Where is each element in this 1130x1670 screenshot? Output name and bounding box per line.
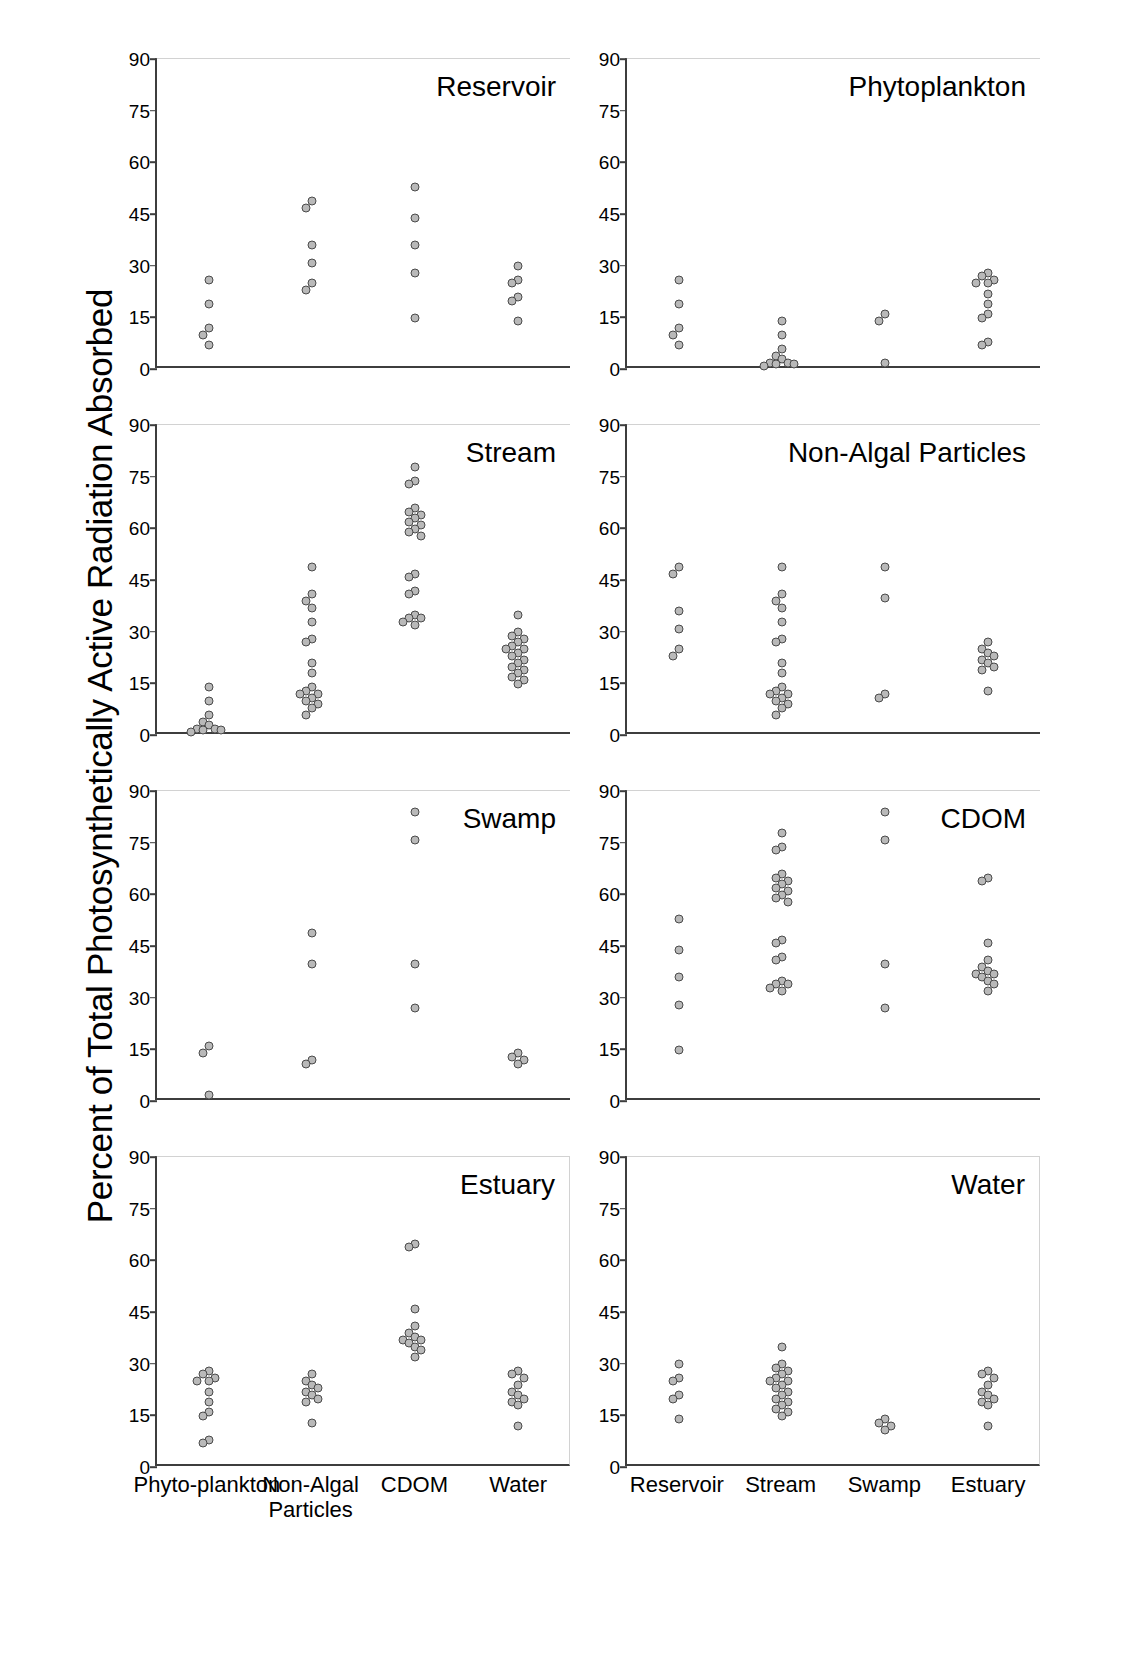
y-tick-mark-0 [150,1100,157,1102]
data-point [307,1418,316,1427]
y-tick-mark-45 [150,213,157,215]
data-point [759,362,768,371]
y-tick-mark-15 [620,683,627,685]
plot-area-swamp: 0153045607590Swamp [155,790,570,1100]
y-tick-mark-45 [620,945,627,947]
y-tick-label-75: 75 [129,1199,150,1218]
y-tick-mark-15 [150,1049,157,1051]
y-tick-mark-60 [620,894,627,896]
y-tick-mark-60 [620,162,627,164]
data-point [668,331,677,340]
y-tick-label-75: 75 [599,467,620,486]
data-point [765,983,774,992]
data-point [405,590,414,599]
data-point [783,897,792,906]
data-point [771,846,780,855]
plot-area-non-algal-particles: 0153045607590Non-Algal Particles [625,424,1040,734]
y-tick-label-15: 15 [599,1040,620,1059]
data-point [204,1387,213,1396]
y-tick-mark-30 [150,631,157,633]
data-point [789,360,798,369]
y-tick-label-60: 60 [129,1251,150,1270]
x-tick-label-stream: Stream [745,1472,816,1497]
data-point [668,569,677,578]
y-tick-label-30: 30 [129,1354,150,1373]
y-tick-mark-30 [620,631,627,633]
data-point [881,562,890,571]
y-tick-mark-30 [150,997,157,999]
data-point [417,531,426,540]
data-point [777,659,786,668]
y-tick-mark-75 [150,842,157,844]
data-point [984,686,993,695]
y-tick-mark-15 [620,1415,627,1417]
y-tick-label-0: 0 [139,1092,150,1111]
y-tick-label-15: 15 [129,308,150,327]
data-point [411,269,420,278]
y-tick-mark-0 [150,1466,157,1468]
y-tick-label-45: 45 [129,937,150,956]
y-tick-mark-45 [150,945,157,947]
data-point [198,1049,207,1058]
y-tick-mark-45 [620,1311,627,1313]
y-tick-mark-15 [150,683,157,685]
data-point [301,1398,310,1407]
y-tick-mark-0 [620,734,627,736]
data-point [881,1004,890,1013]
x-tick-label-swamp: Swamp [848,1472,921,1497]
data-point [198,1411,207,1420]
data-point [674,1045,683,1054]
y-tick-label-75: 75 [599,101,620,120]
y-tick-mark-0 [620,368,627,370]
data-point [668,1377,677,1386]
data-point [674,1001,683,1010]
y-tick-label-15: 15 [599,1406,620,1425]
y-tick-label-75: 75 [129,833,150,852]
data-point [513,1422,522,1431]
data-point [307,659,316,668]
data-point [771,939,780,948]
y-tick-label-90: 90 [129,50,150,69]
y-tick-label-30: 30 [599,256,620,275]
y-tick-label-0: 0 [139,726,150,745]
panel-reservoir: 0153045607590Reservoir [100,40,570,388]
data-point [674,607,683,616]
y-tick-mark-0 [150,368,157,370]
plot-area-estuary: 0153045607590Estuary [155,1156,570,1466]
data-point [674,914,683,923]
y-tick-label-30: 30 [129,256,150,275]
data-point [978,313,987,322]
figure-panel-grid: Percent of Total Photosynthetically Acti… [0,0,1130,1670]
data-point [411,808,420,817]
data-point [192,1377,201,1386]
y-tick-label-90: 90 [599,1148,620,1167]
y-axis-title-container: Percent of Total Photosynthetically Acti… [0,0,92,1520]
data-point [777,317,786,326]
data-point [307,241,316,250]
data-point [674,945,683,954]
data-point [198,1439,207,1448]
data-point [301,638,310,647]
data-point [674,624,683,633]
y-tick-label-45: 45 [599,937,620,956]
y-tick-mark-75 [620,842,627,844]
panel-title: Estuary [460,1169,555,1201]
y-tick-mark-90 [620,1156,627,1158]
data-point [514,679,523,688]
y-tick-mark-30 [620,1363,627,1365]
data-point [198,331,207,340]
data-point [777,669,786,678]
y-tick-mark-45 [620,213,627,215]
data-point [881,358,890,367]
data-point [984,300,993,309]
y-tick-label-45: 45 [129,571,150,590]
y-tick-mark-15 [150,317,157,319]
data-point [307,669,316,678]
y-tick-label-90: 90 [129,1148,150,1167]
y-tick-label-15: 15 [129,1040,150,1059]
data-point [674,1415,683,1424]
panel-title: Phytoplankton [849,71,1026,103]
y-tick-label-0: 0 [139,360,150,379]
data-point [978,877,987,886]
panel-title: Swamp [463,803,556,835]
